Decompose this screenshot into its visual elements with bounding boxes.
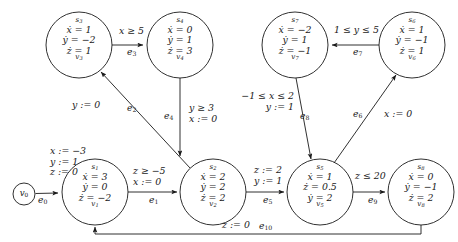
node-v7[interactable] [262, 12, 328, 78]
edge-arrow-e6[interactable] [334, 75, 396, 163]
edge-arrow-e10[interactable] [95, 225, 421, 234]
node-v8[interactable] [388, 159, 454, 225]
edge-arrow-e0[interactable] [36, 193, 59, 194]
node-v4[interactable] [147, 12, 213, 78]
node-v0[interactable] [13, 183, 35, 205]
node-v1[interactable] [62, 159, 128, 225]
node-v2[interactable] [180, 159, 246, 225]
edge-arrow-e2[interactable] [101, 72, 190, 168]
node-v6[interactable] [379, 12, 445, 78]
node-v5[interactable] [287, 159, 353, 225]
edge-arrow-e8[interactable] [296, 78, 311, 159]
node-v3[interactable] [46, 12, 112, 78]
diagram-canvas: v0 s3 ẋ = 1 ẏ = −2 ż = 1 v3 s4 ẋ = 0 ẏ =… [0, 0, 458, 242]
